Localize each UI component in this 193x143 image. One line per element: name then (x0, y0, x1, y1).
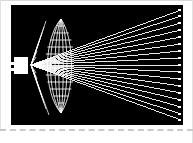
ray-tip (178, 22, 181, 24)
ray-line (31, 65, 181, 120)
feed-ray (31, 65, 49, 115)
ray-tip-markers (178, 9, 181, 121)
ray-tip (178, 15, 181, 17)
ray-tip (178, 92, 181, 94)
collimated-ray-bundle (31, 10, 181, 120)
page-left-rule (0, 0, 1, 130)
feed-waveguide-stub (11, 62, 15, 65)
feed-waveguide-stub (11, 68, 15, 71)
ray-tip (178, 9, 181, 11)
page-top-rule (0, 0, 193, 1)
ray-tip (178, 43, 181, 45)
antenna-diagram-canvas (11, 5, 183, 125)
ray-tip (178, 85, 181, 87)
ray-tip (178, 71, 181, 73)
feed-horn-body (14, 57, 28, 74)
ray-tip (178, 99, 181, 101)
ray-tip (178, 119, 181, 121)
ray-tip (178, 36, 181, 38)
ray-tip (178, 50, 181, 52)
ray-tip (178, 64, 181, 66)
ray-tip (178, 113, 181, 115)
ray-tip (178, 78, 181, 80)
page-right-rule (192, 0, 193, 143)
ray-tip (178, 106, 181, 108)
figure-caption (0, 131, 193, 143)
ray-tip (178, 57, 181, 59)
ray-tip (178, 29, 181, 31)
antenna-diagram-svg (11, 5, 183, 125)
feed-horn-assembly (11, 57, 28, 74)
figure-root (0, 0, 193, 143)
